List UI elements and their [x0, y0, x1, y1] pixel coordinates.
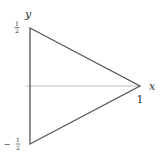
x-tick-one: 1 [137, 93, 144, 106]
x-axis-label: x [149, 80, 156, 93]
y-tick-half: 1 2 [15, 20, 20, 34]
triangle-diagram: y x 1 2 − 1 2 1 [0, 0, 164, 161]
y-tick-neg-half-denominator: 2 [16, 144, 20, 151]
y-tick-half-denominator: 2 [15, 27, 19, 34]
y-tick-half-numerator: 1 [15, 20, 19, 27]
y-tick-neg-half-numerator: 1 [16, 136, 20, 143]
minus-sign: − [4, 140, 11, 149]
y-tick-neg-half: − 1 2 [4, 136, 21, 151]
y-axis-label: y [24, 8, 32, 21]
